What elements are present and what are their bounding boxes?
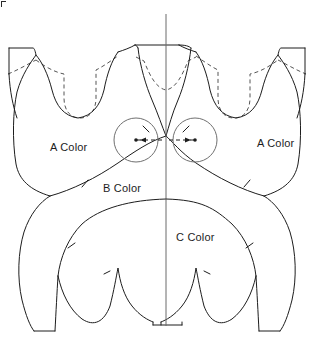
label-a-color-left: A Color — [50, 141, 87, 154]
outline-right-leg-inner — [256, 276, 259, 331]
outline-left-hip-outer — [19, 196, 50, 331]
arch-left — [58, 268, 153, 323]
dashed-outline-left-outer — [8, 60, 36, 74]
dashed-outline-right-outer — [278, 60, 306, 74]
center-scoop-left — [138, 48, 166, 136]
label-a-color-right: A Color — [257, 137, 294, 150]
notch-arch-left — [104, 271, 110, 274]
outline-left-outer-edge — [9, 48, 50, 196]
center-scoop-right — [166, 48, 191, 136]
notch-arch-right — [204, 271, 210, 274]
notch-center-left — [143, 126, 149, 132]
label-b-color: B Color — [103, 182, 141, 195]
dashed-outline-right-neck — [196, 56, 278, 118]
dimension-arrow-left — [140, 138, 146, 143]
notch-marks — [68, 126, 253, 274]
arch-right — [161, 268, 256, 323]
notch-center-right — [183, 126, 189, 132]
outline-left-armhole-curve — [36, 52, 118, 118]
outline-right-outer-edge — [264, 48, 305, 196]
c-color-seam-lines — [58, 199, 256, 276]
outline-left-leg-inner — [55, 276, 58, 331]
notch-b-right — [244, 180, 250, 187]
outline-right-hip-outer — [264, 196, 295, 331]
pattern-drawing — [0, 0, 314, 348]
inner-leg-arches — [58, 268, 256, 325]
label-c-color: C Color — [176, 231, 215, 244]
b-seam-right — [166, 136, 264, 196]
hidden-underlay-outlines — [8, 56, 306, 118]
outline-right-armhole-curve — [196, 52, 278, 118]
notch-c-left — [68, 243, 75, 248]
pattern-diagram-canvas: A Color A Color B Color C Color — [0, 0, 314, 348]
c-seam-left — [58, 199, 166, 276]
dashed-outline-left-neck — [36, 56, 118, 118]
dimension-arrow-right — [185, 138, 191, 143]
outline-left-shoulder-to-center — [118, 45, 135, 52]
